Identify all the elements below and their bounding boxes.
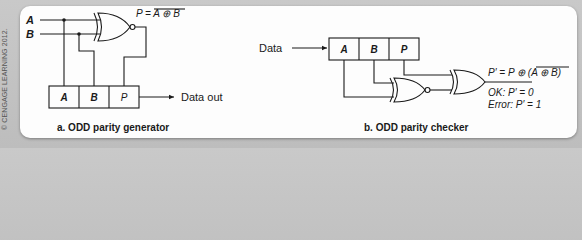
checker-register: A B P [329,38,419,60]
parity-generator: A B P = A ⊕ B A B P [25,8,223,133]
register-cell-p: P [401,44,408,55]
xnor-gate-icon [390,78,430,102]
ok-condition: OK: P′ = 0 [488,87,534,98]
register-cell-a: A [339,44,347,55]
data-out-label: Data out [181,91,223,103]
input-b-label: B [26,28,34,40]
register-cell-a: A [59,92,67,103]
input-a-label: A [25,14,34,26]
generator-register: A B P [49,86,139,108]
parity-checker: Data A B P P′ = P ⊕ (A ⊕ B) [259,38,569,133]
xor-gate-icon [450,70,485,94]
checker-caption: b. ODD parity checker [364,122,469,133]
register-cell-b: B [90,92,97,103]
xnor-gate-icon [94,13,135,41]
checker-equation: P′ = P ⊕ (A ⊕ B) [488,67,561,78]
parity-diagram: A B P = A ⊕ B A B P [0,0,582,148]
data-input-label: Data [259,42,283,54]
error-condition: Error: P′ = 1 [488,99,541,110]
register-cell-b: B [370,44,377,55]
generator-caption: a. ODD parity generator [57,122,169,133]
register-cell-p: P [121,92,128,103]
generator-equation: P = A ⊕ B [136,8,180,19]
